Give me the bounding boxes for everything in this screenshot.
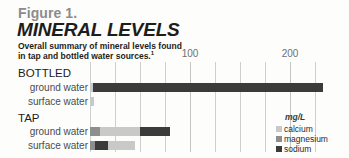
- row-label-bottled-ground-water: ground water: [2, 82, 88, 93]
- group-label-bottled: BOTTLED: [18, 67, 71, 79]
- gridline-25: [115, 62, 116, 152]
- legend-item-calcium: calcium: [276, 124, 328, 134]
- bar-segment-magnesium: [90, 127, 100, 136]
- legend-label: calcium: [284, 124, 313, 134]
- legend-swatch-sodium-icon: [276, 146, 282, 152]
- gridline-50: [140, 62, 141, 152]
- legend-swatch-calcium-icon: [276, 126, 282, 132]
- bar-segment-sodium: [140, 127, 170, 136]
- legend-items: calciummagnesiumsodium: [276, 124, 328, 154]
- bar-segment-calcium: [100, 127, 140, 136]
- legend-item-magnesium: magnesium: [276, 134, 328, 144]
- figure-subtitle-line1: Overall summary of mineral levels found: [18, 41, 182, 51]
- legend-swatch-magnesium-icon: [276, 136, 282, 142]
- gridline-150: [240, 62, 241, 152]
- gridline-75: [165, 62, 166, 152]
- row-label-bottled-surface-water: surface water: [2, 96, 88, 107]
- figure-subtitle-line2: in tap and bottled water sources.: [18, 51, 151, 61]
- figure-subtitle: Overall summary of mineral levels found …: [18, 41, 200, 61]
- legend-label: magnesium: [284, 134, 328, 144]
- gridline-175: [265, 62, 266, 152]
- axis-tick-label-100: 100: [182, 48, 199, 59]
- legend-item-sodium: sodium: [276, 144, 328, 154]
- bar-segment-calcium: [108, 141, 135, 150]
- group-label-tap: TAP: [18, 112, 40, 124]
- legend: mg/L calciummagnesiumsodium: [276, 112, 328, 154]
- gridline-0: [90, 62, 91, 152]
- bar-segment-calcium: [90, 97, 94, 106]
- footnote-marker: 1: [151, 50, 154, 56]
- legend-unit-label: mg/L: [285, 112, 328, 122]
- row-label-tap-ground-water: ground water: [2, 126, 88, 137]
- axis-tick-label-200: 200: [282, 48, 299, 59]
- bar-segment-sodium: [95, 141, 108, 150]
- figure-mineral-levels: Figure 1. MINERAL LEVELS Overall summary…: [0, 0, 349, 158]
- figure-title: MINERAL LEVELS: [17, 19, 180, 40]
- legend-label: sodium: [284, 144, 311, 154]
- gridline-125: [215, 62, 216, 152]
- bar-segment-sodium: [93, 83, 323, 92]
- gridline-100: [190, 62, 191, 152]
- row-label-tap-surface-water: surface water: [2, 140, 88, 151]
- row-labels-column: BOTTLED ground water surface water TAP g…: [0, 62, 88, 152]
